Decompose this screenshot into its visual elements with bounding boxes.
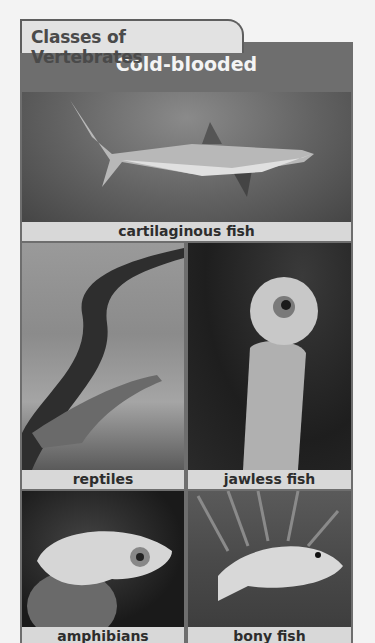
label-cartilaginous-fish: cartilaginous fish [22,222,351,241]
lizard-photo [22,243,184,470]
label-jawless-fish: jawless fish [188,470,351,489]
lamprey-photo [188,243,351,470]
label-amphibians: amphibians [22,627,184,643]
fish-photo [188,491,351,627]
label-bony-fish: bony fish [188,627,351,643]
section-tab: Classes of Vertebrates [20,19,244,53]
label-reptiles: reptiles [22,470,184,489]
frog-photo [22,491,184,627]
shark-photo [22,92,351,222]
